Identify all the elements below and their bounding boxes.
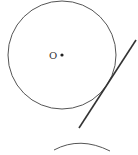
center-point xyxy=(60,53,63,56)
center-label: O xyxy=(49,50,57,61)
geometry-diagram: O xyxy=(0,0,138,155)
lower-circle-arc xyxy=(54,143,110,151)
secant-line xyxy=(79,40,136,128)
